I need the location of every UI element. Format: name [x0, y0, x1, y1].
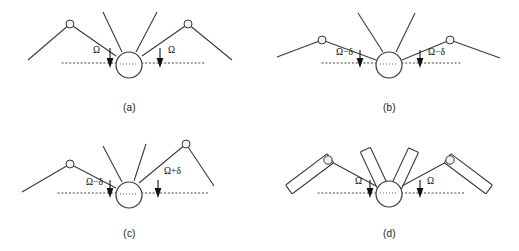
- joint-circle-left-a: [66, 20, 74, 28]
- hub-circle-b: [376, 52, 402, 78]
- hub-circle-d: [376, 181, 402, 207]
- angle-arrow-right-d: [417, 180, 424, 198]
- inner-spoke-left-a: [103, 12, 122, 52]
- right-upper-arm-c: [139, 144, 186, 183]
- right-lower-arm-c: [186, 144, 214, 186]
- inner-spoke-left-c: [103, 146, 122, 182]
- joint-circle-right-a: [184, 20, 192, 28]
- hub-circle-a: [116, 52, 142, 78]
- joint-circle-left-d: [324, 156, 332, 164]
- right-lower-arm-b: [450, 40, 500, 58]
- figure-canvas: Ω Ω (a) Ω−δ: [0, 0, 519, 251]
- angle-label-left-d: Ω: [355, 176, 362, 186]
- angle-arrow-left-a: [107, 48, 114, 68]
- right-lower-arm-a: [188, 24, 232, 60]
- angle-arrow-left-d: [367, 180, 374, 198]
- panel-b: Ω−δ Ω−δ (b): [260, 0, 519, 125]
- angle-arrow-right-b: [417, 50, 424, 68]
- angle-label-right-a: Ω: [168, 45, 175, 55]
- joint-circle-right-b: [446, 36, 454, 44]
- left-lower-arm-c: [22, 164, 70, 192]
- left-lower-arm-a: [28, 24, 70, 60]
- panel-d: Ω Ω (d): [260, 126, 519, 251]
- panel-caption-c: (c): [0, 228, 259, 239]
- hub-circle-c: [116, 182, 142, 208]
- inner-spoke-right-b: [396, 13, 415, 52]
- angle-arrow-left-c: [107, 180, 114, 198]
- panel-caption-a: (a): [0, 102, 259, 113]
- joint-circle-right-d: [446, 156, 454, 164]
- angle-label-right-d: Ω: [427, 176, 434, 186]
- angle-label-left-c: Ω−δ: [86, 177, 103, 187]
- inner-spoke-left-b: [358, 13, 383, 52]
- angle-label-right-b: Ω−δ: [428, 47, 445, 57]
- angle-label-left-b: Ω−δ: [336, 47, 353, 57]
- joint-circle-right-c: [182, 140, 190, 148]
- panel-caption-b: (b): [260, 102, 519, 113]
- left-lower-arm-b: [277, 40, 322, 57]
- angle-arrow-right-c: [155, 180, 162, 198]
- joint-circle-left-c: [66, 160, 74, 168]
- inner-spoke-right-c: [134, 144, 146, 181]
- angle-arrow-right-a: [157, 48, 164, 68]
- right-upper-arm-a: [142, 24, 188, 56]
- panel-c: Ω−δ Ω+δ (c): [0, 126, 259, 251]
- inner-spoke-right-a: [136, 12, 157, 52]
- panel-caption-d: (d): [260, 228, 519, 239]
- angle-label-left-a: Ω: [93, 45, 100, 55]
- panel-a: Ω Ω (a): [0, 0, 259, 125]
- joint-circle-left-b: [318, 36, 326, 44]
- angle-label-right-c: Ω+δ: [164, 166, 181, 176]
